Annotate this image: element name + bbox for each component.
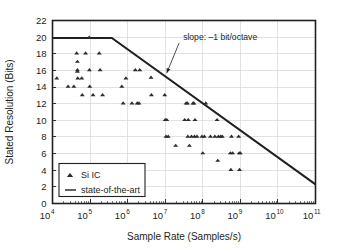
legend-label: Si IC [81,170,101,180]
svg-text:8: 8 [201,208,205,215]
y-tick-label: 12 [36,98,47,109]
y-tick-label: 0 [41,198,46,209]
svg-text:10: 10 [190,210,201,221]
y-tick-label: 10 [36,115,47,126]
svg-text:11: 11 [314,208,321,215]
resolution-vs-sample-rate-chart: slope: –1 bit/octave 0246810121416182022… [0,0,337,248]
y-tick-label: 22 [36,15,47,26]
svg-text:7: 7 [164,208,168,215]
svg-text:9: 9 [239,208,243,215]
y-axis-title: Stated Resolution (Bits) [4,59,15,164]
y-tick-label: 18 [36,48,47,59]
svg-text:10: 10 [303,210,314,221]
svg-text:10: 10 [265,210,276,221]
svg-text:10: 10 [40,210,51,221]
y-tick-label: 20 [36,32,47,43]
y-tick-label: 2 [41,181,46,192]
y-tick-label: 8 [41,131,46,142]
svg-text:10: 10 [152,210,163,221]
svg-text:10: 10 [228,210,239,221]
svg-text:10: 10 [115,210,126,221]
x-axis-title: Sample Rate (Samples/s) [127,231,241,242]
chart-figure: slope: –1 bit/octave 0246810121416182022… [0,0,337,248]
svg-text:10: 10 [77,210,88,221]
y-tick-label: 16 [36,65,47,76]
svg-text:4: 4 [51,208,55,215]
chart-legend[interactable]: Si ICstate-of-the-art [59,164,145,197]
slope-annotation-text: slope: –1 bit/octave [183,32,257,42]
y-tick-label: 6 [41,148,46,159]
svg-text:5: 5 [89,208,93,215]
svg-text:6: 6 [126,208,130,215]
legend-label: state-of-the-art [81,185,141,195]
y-tick-label: 4 [41,165,46,176]
y-tick-label: 14 [36,81,47,92]
svg-text:10: 10 [276,208,284,215]
